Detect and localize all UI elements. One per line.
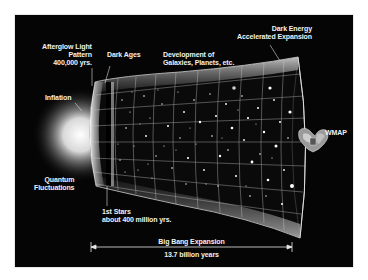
dark-energy-label: Dark Energy Accelerated Expansion: [237, 25, 312, 41]
big-bang-expansion-label: Big Bang Expansion: [91, 238, 292, 246]
development-label: Development of Galaxies, Planets, etc.: [163, 51, 234, 67]
afterglow-label: Afterglow Light Pattern 400,000 yrs.: [42, 43, 92, 67]
wmap-label: WMAP: [325, 129, 347, 137]
quantum-fluctuations-label: Quantum Fluctuations: [34, 176, 74, 192]
first-stars-label: 1st Stars about 400 million yrs.: [102, 208, 171, 224]
inflation-label: Inflation: [45, 94, 71, 102]
duration-label: 13.7 billion years: [91, 251, 292, 259]
universe-timeline-diagram: Afterglow Light Pattern 400,000 yrs. Dar…: [15, 15, 353, 267]
dark-ages-label: Dark Ages: [107, 51, 140, 59]
